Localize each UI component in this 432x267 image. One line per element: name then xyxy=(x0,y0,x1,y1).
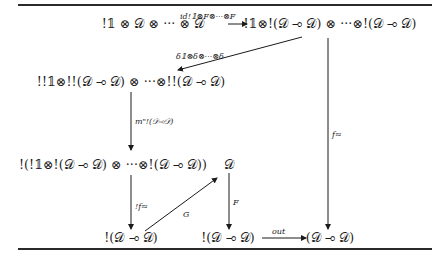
node-top-right: !𝟙⊗!(𝒟 ⊸ 𝒟) ⊗ ···⊗!(𝒟 ⊸ 𝒟) xyxy=(243,17,416,31)
label-out: out xyxy=(272,227,285,236)
label-m: mⁿ!(𝒟⊸𝒟) xyxy=(135,117,173,126)
arrows-layer xyxy=(0,0,432,267)
label-bang-f: !f≈ xyxy=(135,202,148,211)
arrow-g xyxy=(145,178,217,231)
label-f: F xyxy=(233,198,239,207)
label-top-arrow: id!𝟙⊗F⊗···⊗F xyxy=(180,12,235,21)
label-f-approx: f≈ xyxy=(332,130,342,139)
label-delta: δ𝟙⊗δ⊗···⊗δ xyxy=(176,52,224,61)
node-mid: !!𝟙⊗!!(𝒟 ⊸ 𝒟) ⊗ ···⊗!!(𝒟 ⊸ 𝒟) xyxy=(37,75,225,89)
node-bottom-mid: !(𝒟 ⊸ 𝒟) xyxy=(201,231,255,245)
node-d: 𝒟 xyxy=(224,158,234,172)
node-bottom-left: !(𝒟 ⊸ 𝒟) xyxy=(104,231,158,245)
node-lower: !(!𝟙⊗!(𝒟 ⊸ 𝒟) ⊗ ···⊗!(𝒟 ⊸ 𝒟)) xyxy=(19,158,207,172)
node-bottom-right: (𝒟 ⊸ 𝒟) xyxy=(306,231,354,245)
label-g: G xyxy=(183,210,189,219)
